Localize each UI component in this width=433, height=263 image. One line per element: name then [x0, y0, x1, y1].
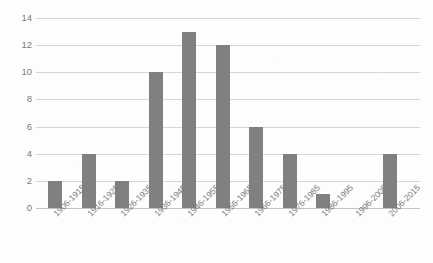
x-axis: 1906-19151916-19251926-19351936-19451946… — [36, 208, 420, 263]
bar — [182, 32, 196, 208]
y-axis-tick-label: 10 — [2, 68, 32, 78]
y-axis-tick-label: 2 — [2, 176, 32, 186]
y-axis-tick-label: 4 — [2, 149, 32, 159]
bar — [249, 127, 263, 208]
bar — [283, 154, 297, 208]
y-axis-tick-label: 12 — [2, 40, 32, 50]
bar — [383, 154, 397, 208]
plot-area — [36, 18, 420, 208]
y-axis-tick-label: 0 — [2, 203, 32, 213]
bar-chart: 02468101214 1906-19151916-19251926-19351… — [0, 0, 433, 263]
y-axis: 02468101214 — [0, 18, 32, 208]
y-axis-tick-label: 14 — [2, 13, 32, 23]
gridline — [36, 18, 420, 19]
bar — [216, 45, 230, 208]
y-axis-tick-label: 6 — [2, 122, 32, 132]
y-axis-tick-label: 8 — [2, 95, 32, 105]
bar — [82, 154, 96, 208]
